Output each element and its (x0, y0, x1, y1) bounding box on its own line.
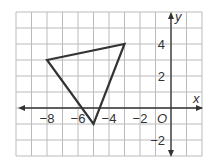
x-tick-label: −4 (102, 111, 117, 126)
y-tick-label: 4 (158, 37, 165, 52)
x-axis-label: x (192, 91, 200, 106)
y-tick-label: 2 (158, 69, 165, 84)
y-axis-up-arrow-icon (168, 12, 174, 19)
x-tick-label: −8 (40, 111, 55, 126)
coordinate-plane: −8−6−4−242−2Oxy (0, 0, 209, 167)
x-tick-label: −6 (71, 111, 86, 126)
x-axis-left-arrow-icon (18, 105, 25, 111)
tick-labels: −8−6−4−242−2Oxy (40, 9, 200, 148)
y-axis-label: y (174, 9, 183, 24)
axes (18, 12, 203, 157)
y-tick-label: −2 (150, 133, 165, 148)
x-tick-label: −2 (133, 111, 148, 126)
origin-label: O (157, 111, 167, 126)
